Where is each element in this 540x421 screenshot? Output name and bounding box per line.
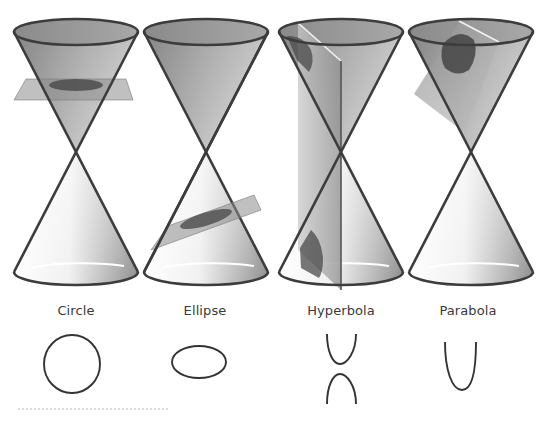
- circle-cross-section: [49, 79, 103, 91]
- label-hyperbola: Hyperbola: [307, 303, 375, 318]
- hyperbola-panel: [279, 19, 403, 290]
- parabola-curve: [445, 342, 476, 390]
- label-circle: Circle: [57, 303, 94, 318]
- ellipse-curve: [172, 346, 226, 378]
- hyperbola-lower-curve: [327, 374, 356, 404]
- conic-sections-diagram: [0, 0, 540, 421]
- circle-curve: [44, 335, 100, 393]
- faint-caption-artifact: [18, 408, 168, 413]
- hyperbola-upper-curve: [327, 334, 356, 364]
- curves-row: [44, 334, 476, 404]
- ellipse-panel: [144, 19, 268, 285]
- circle-panel: [14, 19, 138, 285]
- label-ellipse: Ellipse: [184, 303, 227, 318]
- label-parabola: Parabola: [439, 303, 496, 318]
- parabola-panel: [409, 19, 533, 285]
